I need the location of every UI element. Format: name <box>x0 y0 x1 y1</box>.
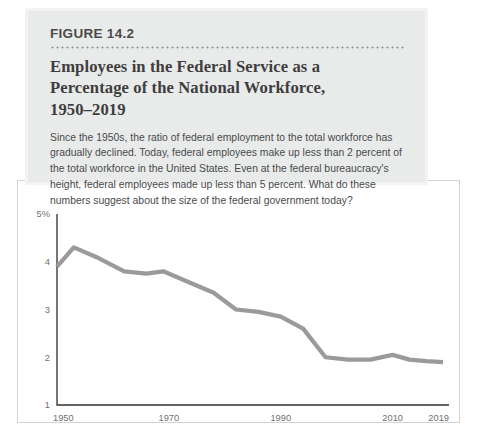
x-axis-tick-label: 1950 <box>53 413 74 423</box>
figure-title-line-2: Percentage of the National Workforce, <box>50 77 405 99</box>
figure-title-line-1: Employees in the Federal Service as a <box>50 56 405 78</box>
figure-root: FIGURE 14.2 Employees in the Federal Ser… <box>0 0 478 445</box>
x-axis-tick-label: 2010 <box>382 413 403 423</box>
y-axis-tick-label: 1 <box>45 400 50 410</box>
figure-title: Employees in the Federal Service as a Pe… <box>50 56 405 121</box>
figure-header-box: FIGURE 14.2 Employees in the Federal Ser… <box>25 8 428 185</box>
x-axis-tick-label: 1970 <box>159 413 180 423</box>
x-axis-tick-labels: 19501970199020102019 <box>53 413 449 423</box>
y-axis-tick-label: 2 <box>45 353 50 363</box>
x-axis-tick-label: 1990 <box>270 413 291 423</box>
x-axis-tick-label: 2019 <box>428 413 449 423</box>
y-axis-tick-label: 3 <box>45 305 50 315</box>
data-series-line <box>57 247 443 362</box>
y-axis-tick-label: 5% <box>37 209 50 219</box>
y-axis-tick-labels: 5%4321 <box>37 209 50 410</box>
line-chart: 5%4321 19501970199020102019 <box>17 185 460 423</box>
figure-number-label: FIGURE 14.2 <box>50 27 405 42</box>
y-axis-tick-label: 4 <box>45 257 50 267</box>
figure-title-line-3: 1950–2019 <box>50 99 405 121</box>
dotted-divider <box>50 46 405 49</box>
chart-svg: 5%4321 19501970199020102019 <box>17 185 460 423</box>
